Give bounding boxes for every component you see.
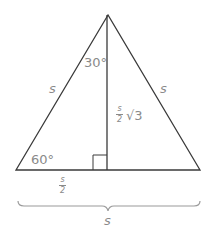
altitude-frac-denominator: 2 bbox=[117, 116, 122, 124]
base-angle-label: 60° bbox=[31, 153, 54, 166]
right-side-label: s bbox=[160, 82, 167, 95]
half-base-numerator: s bbox=[60, 176, 64, 184]
altitude-fraction: s 2 bbox=[116, 105, 123, 124]
altitude-frac-numerator: s bbox=[117, 105, 121, 113]
triangle-diagram bbox=[0, 0, 216, 238]
altitude-root-label: √3 bbox=[126, 109, 143, 122]
equilateral-triangle bbox=[16, 15, 200, 170]
base-brace bbox=[18, 201, 200, 211]
right-angle-marker bbox=[93, 155, 107, 170]
half-base-fraction: s 2 bbox=[59, 176, 66, 195]
apex-angle-label: 30° bbox=[84, 56, 107, 69]
full-base-label: s bbox=[104, 214, 111, 227]
left-side-label: s bbox=[49, 82, 56, 95]
half-base-denominator: 2 bbox=[60, 187, 65, 195]
